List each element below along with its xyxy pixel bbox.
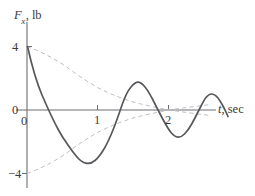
y-tick-label-0: 0 <box>12 104 18 117</box>
y-axis-title-unit: , lb <box>26 8 42 22</box>
figure-container: Fx, lb t, sec 4 0 −4 0 1 2 <box>0 0 255 196</box>
x-tick-label-2: 2 <box>165 114 171 127</box>
damped-oscillation-curve <box>28 47 229 164</box>
y-tick-label-neg4: −4 <box>8 168 21 181</box>
y-axis-title: Fx, lb <box>14 9 42 25</box>
x-tick-label-1: 1 <box>94 114 100 127</box>
x-tick-label-0: 0 <box>21 115 27 128</box>
x-axis-title: t, sec <box>218 103 244 116</box>
y-tick-label-4: 4 <box>12 41 18 54</box>
x-axis-title-unit: , sec <box>221 102 243 116</box>
plot-canvas <box>0 0 255 196</box>
y-axis-title-subscript: x <box>21 16 25 26</box>
upper-envelope-curve <box>27 47 211 116</box>
